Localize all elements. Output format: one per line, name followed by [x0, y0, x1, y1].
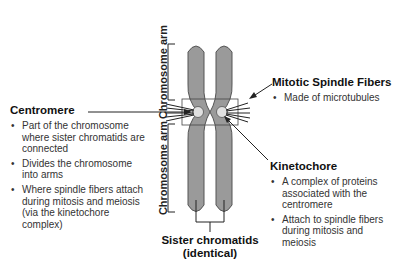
sister-chromatids-line2: (identical) — [150, 247, 270, 260]
kinetochore-bullet: Attach to spindle fibers during mitosis … — [270, 214, 399, 249]
spindle-fibers-bullets: Made of microtubules — [272, 92, 399, 104]
centromere-title: Centromere — [10, 104, 145, 116]
spindle-fibers-callout: Mitotic Spindle Fibers Made of microtubu… — [272, 76, 399, 107]
centromere-bullets: Part of the chromosome where sister chro… — [10, 120, 145, 230]
label-chromosome-arm-bottom: Chromosome arm — [157, 118, 169, 218]
centromere-left-sphere — [193, 107, 204, 118]
centromere-bullet: Part of the chromosome where sister chro… — [10, 120, 145, 155]
spindle-fibers-bullet: Made of microtubules — [272, 92, 399, 104]
sister-chromatids-line1: Sister chromatids — [150, 234, 270, 247]
spindle-fibers-title: Mitotic Spindle Fibers — [272, 76, 399, 88]
kinetochore-title: Kinetochore — [270, 160, 399, 172]
kinetochore-bullet: A complex of proteins associated with th… — [270, 176, 399, 211]
label-chromosome-arm-top: Chromosome arm — [157, 22, 169, 122]
centromere-callout: Centromere Part of the chromosome where … — [10, 104, 145, 233]
spindle-arrowhead — [249, 92, 257, 99]
centromere-bullet: Where spindle fibers attach during mitos… — [10, 184, 145, 230]
centromere-right-sphere — [217, 107, 228, 118]
kinetochore-bullets: A complex of proteins associated with th… — [270, 176, 399, 249]
centromere-bullet: Divides the chromosome into arms — [10, 158, 145, 181]
kinetochore-callout: Kinetochore A complex of proteins associ… — [270, 160, 399, 252]
right-chromatid — [210, 46, 232, 212]
label-sister-chromatids: Sister chromatids (identical) — [150, 234, 270, 260]
